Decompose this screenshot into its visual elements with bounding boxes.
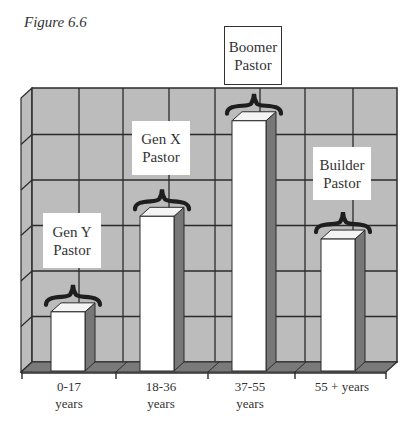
bar-side bbox=[174, 207, 184, 371]
bar-3 bbox=[232, 112, 276, 371]
x-label-line1: 55 + years bbox=[297, 378, 387, 395]
bar-2 bbox=[140, 207, 184, 371]
x-tick-label-37-55: 37-55 years bbox=[205, 378, 295, 412]
bar-label-line1: Gen X bbox=[132, 130, 190, 148]
x-tick-label-55-plus: 55 + years bbox=[297, 378, 387, 395]
x-label-line2: years bbox=[116, 395, 206, 412]
bar-label-builder: Builder Pastor bbox=[313, 147, 371, 200]
bar-front bbox=[140, 216, 174, 371]
bar-label-line1: Gen Y bbox=[43, 223, 101, 241]
bar-label-line2: Pastor bbox=[43, 241, 101, 259]
bar-label-line1: Boomer bbox=[225, 38, 281, 56]
bar-label-line2: Pastor bbox=[225, 56, 281, 74]
bar-side bbox=[266, 112, 276, 371]
x-label-line2: years bbox=[24, 395, 114, 412]
x-tick-label-18-36: 18-36 years bbox=[116, 378, 206, 412]
x-label-line1: 37-55 bbox=[205, 378, 295, 395]
bar-label-boomer: Boomer Pastor bbox=[224, 26, 282, 85]
x-label-line1: 0-17 bbox=[24, 378, 114, 395]
bar-label-gen-x: Gen X Pastor bbox=[132, 121, 190, 175]
bar-side bbox=[85, 303, 95, 371]
x-label-line1: 18-36 bbox=[116, 378, 206, 395]
bar-label-line2: Pastor bbox=[132, 148, 190, 166]
bar-label-gen-y: Gen Y Pastor bbox=[43, 213, 101, 268]
bar-front bbox=[51, 312, 85, 371]
x-tick-label-0-17: 0-17 years bbox=[24, 378, 114, 412]
bar-4 bbox=[321, 230, 365, 371]
bar-side bbox=[355, 230, 365, 371]
bar-front bbox=[232, 121, 266, 371]
bar-front bbox=[321, 239, 355, 371]
bar-label-line1: Builder bbox=[313, 156, 371, 174]
bar-label-line2: Pastor bbox=[313, 174, 371, 192]
x-label-line2: years bbox=[205, 395, 295, 412]
bar-1 bbox=[51, 303, 95, 371]
